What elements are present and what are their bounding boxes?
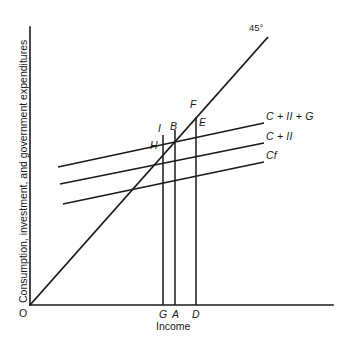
origin-label: O: [19, 308, 27, 319]
forty-five-degree-line: [30, 37, 268, 305]
point-label-h: H: [150, 140, 158, 151]
plot-canvas: [0, 0, 345, 345]
point-label-b: B: [170, 121, 177, 132]
x-tick-label-g: G: [159, 309, 167, 320]
point-label-e: E: [199, 117, 206, 128]
curve-label-c-plus-ii-plus-g: C + II + G: [266, 111, 314, 122]
x-axis-title: Income: [156, 320, 190, 332]
y-axis-title: Consumption, investment, and government …: [17, 40, 29, 303]
angle-annotation-45-degrees: 45°: [249, 23, 263, 33]
x-tick-label-d: D: [192, 309, 200, 320]
line-c-plus-ii: [60, 143, 264, 184]
curve-label-c-plus-ii: C + II: [266, 131, 293, 142]
x-tick-label-a: A: [172, 309, 179, 320]
point-label-i: I: [158, 123, 161, 134]
point-label-f: F: [190, 99, 196, 110]
line-c-plus-ii-plus-g: [58, 123, 264, 167]
economics-keynesian-cross-figure: C + II + G C + II Cf 45° F E B I H G A D…: [0, 0, 345, 345]
curve-label-cf: Cf: [266, 150, 277, 161]
